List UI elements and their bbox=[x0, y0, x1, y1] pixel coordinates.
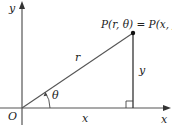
point-p-dot bbox=[131, 31, 135, 35]
diagram-canvas: y x O P(r, θ) = P(x, y) r θ y x bbox=[0, 0, 172, 125]
angle-label: θ bbox=[52, 89, 59, 102]
radius-label: r bbox=[75, 51, 81, 64]
origin-label: O bbox=[8, 110, 17, 123]
horizontal-leg-label: x bbox=[82, 112, 89, 125]
x-axis-arrowhead-icon bbox=[163, 105, 171, 111]
x-axis-label: x bbox=[161, 113, 168, 125]
y-axis-arrowhead-icon bbox=[19, 1, 25, 9]
vertical-leg-label: y bbox=[138, 64, 146, 77]
right-angle-marker bbox=[126, 101, 133, 108]
polar-coordinates-diagram: y x O P(r, θ) = P(x, y) r θ y x bbox=[0, 0, 172, 125]
y-axis-label: y bbox=[8, 2, 16, 15]
radius-line bbox=[22, 33, 133, 108]
point-label: P(r, θ) = P(x, y) bbox=[100, 18, 172, 30]
